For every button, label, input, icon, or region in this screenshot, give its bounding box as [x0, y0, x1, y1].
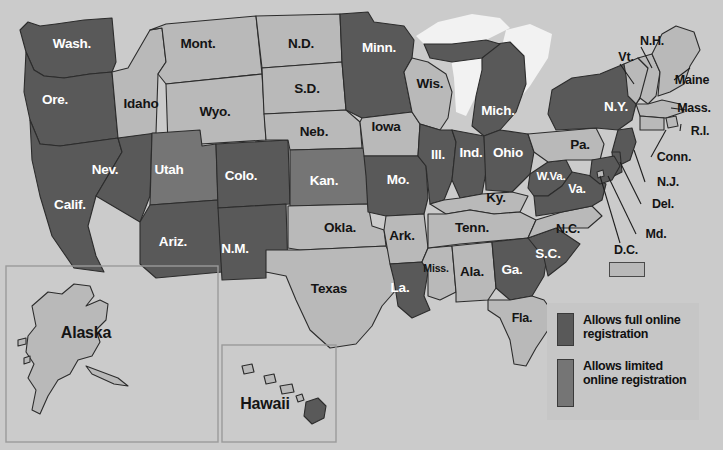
state-alabama: [452, 242, 496, 302]
state-northdakota: [256, 14, 342, 68]
legend-label-limited: Allows limited online registration: [583, 359, 691, 387]
state-connecticut: [640, 116, 664, 130]
us-map-figure: .st{stroke:#2c2c2c;stroke-width:1.1;stro…: [0, 0, 723, 450]
state-rhodeisland: [666, 116, 678, 128]
state-colorado: [216, 140, 290, 208]
map-legend: Allows full online registration Allows l…: [547, 303, 699, 420]
state-southdakota: [262, 62, 346, 114]
dc-legend-swatch: [609, 262, 645, 277]
state-washington: [20, 18, 116, 78]
legend-swatch-limited: [557, 359, 574, 407]
legend-label-full: Allows full online registration: [583, 313, 691, 341]
state-montana: [150, 16, 262, 84]
state-kansas: [290, 148, 368, 206]
legend-item-full: Allows full online registration: [557, 313, 691, 346]
state-missouri: [364, 156, 428, 216]
legend-item-limited: Allows limited online registration: [557, 359, 691, 407]
state-iowa: [360, 112, 420, 156]
state-indiana: [452, 130, 486, 198]
state-arkansas: [384, 214, 428, 264]
state-minnesota: [340, 12, 414, 118]
legend-swatch-full: [557, 313, 574, 346]
